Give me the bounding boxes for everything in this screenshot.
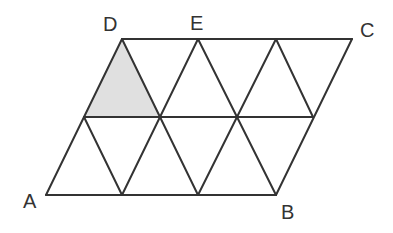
label-A: A (23, 191, 36, 211)
shaded-triangle (84, 39, 160, 117)
diag-down-1 (84, 117, 122, 195)
diag-down-4 (276, 39, 313, 117)
triangle-grid (0, 0, 393, 233)
label-D: D (103, 14, 117, 34)
label-C: C (360, 20, 374, 40)
label-B: B (281, 202, 294, 222)
diagram-canvas: D E C A B (0, 0, 393, 233)
label-E: E (190, 13, 203, 33)
